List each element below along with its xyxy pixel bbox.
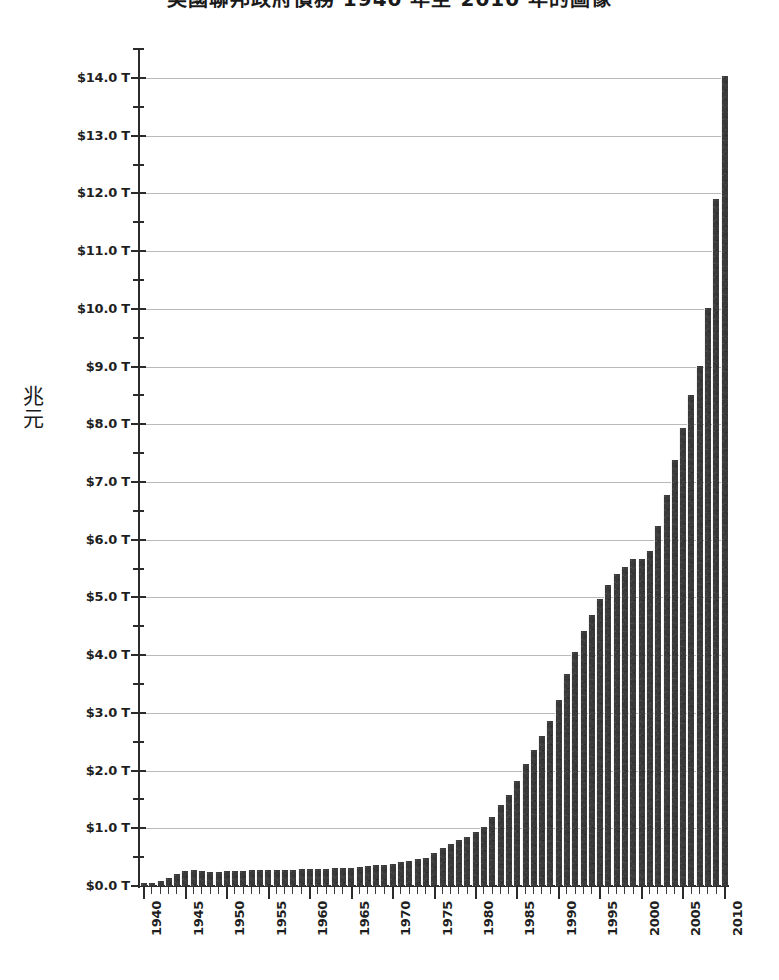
x-axis-minor-tick — [442, 887, 443, 894]
y-axis-tick-label: $13.0 T — [52, 128, 130, 143]
bar — [256, 870, 263, 886]
x-axis-minor-tick — [425, 887, 426, 894]
x-axis-major-tick — [724, 887, 726, 899]
x-axis-minor-tick — [575, 887, 576, 894]
x-axis-minor-tick — [541, 887, 542, 894]
y-axis-tick-label: $2.0 T — [52, 763, 130, 778]
bar — [364, 866, 371, 886]
x-axis-major-tick — [226, 887, 228, 899]
x-axis-minor-tick — [649, 887, 650, 894]
bar — [596, 599, 603, 886]
bar — [165, 878, 172, 886]
bar — [331, 868, 338, 886]
x-axis-minor-tick — [409, 887, 410, 894]
y-axis-tick-label: $14.0 T — [52, 70, 130, 85]
x-axis-tick-label: 1990 — [564, 901, 579, 936]
y-axis-tick-label: $3.0 T — [52, 705, 130, 720]
bar — [231, 871, 238, 886]
x-axis-major-tick — [185, 887, 187, 899]
plot-area — [139, 48, 728, 886]
chart-figure: 美國聯邦政府債務 1940 年至 2010 年的圖像 兆 元 $0.0 T$1.… — [0, 0, 779, 980]
y-axis-tick-label: $8.0 T — [52, 416, 130, 431]
bar — [148, 883, 155, 886]
x-axis-minor-tick — [367, 887, 368, 894]
bar — [663, 495, 670, 886]
bar — [580, 631, 587, 886]
x-axis-minor-tick — [284, 887, 285, 894]
x-axis-major-tick — [558, 887, 560, 899]
bar — [654, 526, 661, 886]
x-axis-minor-tick — [716, 887, 717, 894]
bar — [513, 781, 520, 886]
x-axis-tick-label: 1950 — [232, 901, 247, 936]
bar — [671, 460, 678, 886]
x-axis-major-tick — [599, 887, 601, 899]
x-axis-tick-label: 2005 — [688, 901, 703, 936]
bar — [239, 871, 246, 886]
x-axis-tick-label: 1980 — [481, 901, 496, 936]
bar — [397, 862, 404, 886]
bar — [571, 652, 578, 886]
bar — [505, 795, 512, 886]
x-axis-tick-label: 1940 — [149, 901, 164, 936]
bar — [538, 736, 545, 886]
bar — [157, 881, 164, 886]
x-axis-minor-tick — [276, 887, 277, 894]
bar — [322, 869, 329, 886]
x-axis-minor-tick — [691, 887, 692, 894]
bar — [455, 840, 462, 886]
bar — [422, 858, 429, 886]
x-axis-minor-tick — [160, 887, 161, 894]
x-axis-major-tick — [475, 887, 477, 899]
x-axis-minor-tick — [699, 887, 700, 894]
bar — [356, 867, 363, 886]
x-axis-minor-tick — [210, 887, 211, 894]
y-axis-tick-label: $1.0 T — [52, 820, 130, 835]
x-axis-minor-tick — [168, 887, 169, 894]
x-axis-tick-label: 1960 — [315, 901, 330, 936]
x-axis-tick-label: 1945 — [191, 901, 206, 936]
x-axis-minor-tick — [317, 887, 318, 894]
bar — [480, 827, 487, 886]
y-axis-tick-label: $7.0 T — [52, 474, 130, 489]
x-axis-tick-label: 1955 — [274, 901, 289, 936]
bar — [629, 559, 636, 886]
y-axis-title: 兆 元 — [20, 385, 46, 431]
bar — [546, 721, 553, 886]
bar — [497, 805, 504, 886]
y-axis-title-char-2: 元 — [20, 408, 46, 431]
x-axis-minor-tick — [359, 887, 360, 894]
x-axis-minor-tick — [259, 887, 260, 894]
x-axis-major-tick — [641, 887, 643, 899]
bar — [273, 870, 280, 886]
x-axis-minor-tick — [550, 887, 551, 894]
x-axis-major-tick — [351, 887, 353, 899]
bar — [405, 861, 412, 886]
y-axis-tick-label: $11.0 T — [52, 243, 130, 258]
x-axis-minor-tick — [492, 887, 493, 894]
x-axis-tick-label: 1970 — [398, 901, 413, 936]
x-axis-minor-tick — [292, 887, 293, 894]
x-axis-minor-tick — [251, 887, 252, 894]
bar — [712, 199, 719, 886]
bar — [621, 567, 628, 886]
bar — [687, 395, 694, 886]
x-axis-minor-tick — [201, 887, 202, 894]
bar — [306, 869, 313, 886]
x-axis-minor-tick — [458, 887, 459, 894]
bar — [721, 76, 728, 886]
x-axis-tick-label: 1975 — [440, 901, 455, 936]
bar — [190, 870, 197, 886]
x-axis-minor-tick — [583, 887, 584, 894]
x-axis-minor-tick — [666, 887, 667, 894]
y-axis-tick-label: $12.0 T — [52, 185, 130, 200]
x-axis-major-tick — [143, 887, 145, 899]
x-axis-minor-tick — [301, 887, 302, 894]
y-axis-tick-label: $5.0 T — [52, 589, 130, 604]
bar — [314, 869, 321, 886]
x-axis-major-tick — [516, 887, 518, 899]
x-axis-minor-tick — [674, 887, 675, 894]
bar — [522, 764, 529, 886]
bar — [447, 844, 454, 886]
x-axis-major-tick — [309, 887, 311, 899]
